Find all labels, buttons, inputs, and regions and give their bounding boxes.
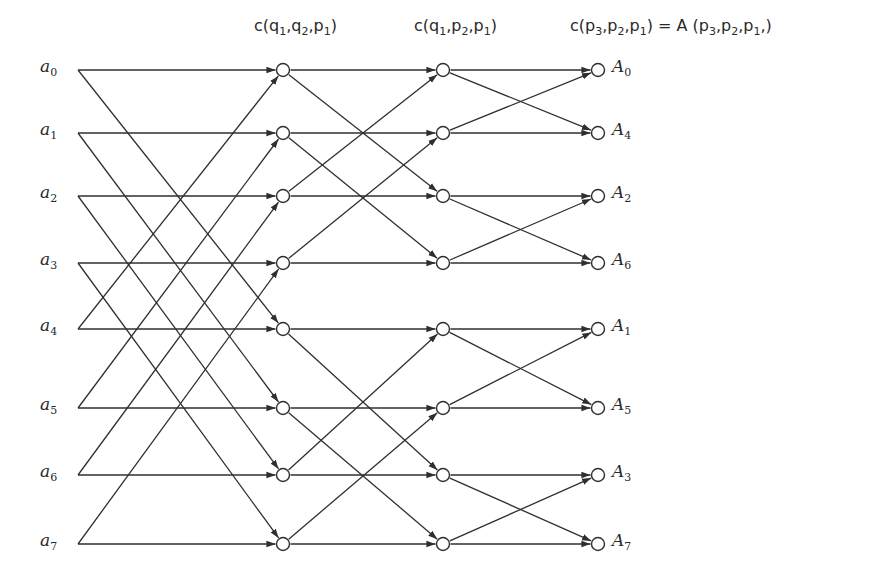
output-label-A6-subscript: 6 [624, 259, 631, 272]
output-label-A6: A6 [612, 251, 631, 271]
node-stage1-row3 [277, 257, 290, 270]
output-label-A2-base: A [612, 182, 624, 202]
input-label-a0: a0 [40, 58, 57, 78]
node-stage3-row4 [592, 323, 605, 336]
input-label-a3-base: a [40, 249, 50, 269]
input-label-a3-subscript: 3 [50, 259, 57, 272]
butterfly-edges [78, 70, 591, 544]
fft-butterfly-diagram [0, 0, 877, 579]
header-stage3: c(p3,p2,p1) = A (p3,p2,p1,) [570, 18, 772, 37]
node-stage2-row0 [437, 64, 450, 77]
output-label-A7-base: A [612, 530, 624, 550]
output-label-A4: A4 [612, 121, 631, 141]
output-label-A6-base: A [612, 249, 624, 269]
node-stage2-row5 [437, 402, 450, 415]
input-label-a1: a1 [40, 121, 57, 141]
output-label-A0: A0 [612, 58, 631, 78]
node-stage1-row2 [277, 190, 290, 203]
output-label-A2: A2 [612, 184, 631, 204]
node-stage2-row7 [437, 538, 450, 551]
node-stage3-row6 [592, 469, 605, 482]
input-label-a0-subscript: 0 [50, 66, 57, 79]
node-stage2-row6 [437, 469, 450, 482]
output-label-A2-subscript: 2 [624, 192, 631, 205]
node-stage2-row4 [437, 323, 450, 336]
output-label-A4-base: A [612, 119, 624, 139]
output-label-A1: A1 [612, 317, 631, 337]
output-label-A0-subscript: 0 [624, 66, 631, 79]
edge-stage1-cross [78, 196, 279, 469]
node-stage3-row5 [592, 402, 605, 415]
input-label-a7-subscript: 7 [50, 540, 57, 553]
output-label-A1-base: A [612, 315, 624, 335]
node-stage1-row7 [277, 538, 290, 551]
input-label-a4-base: a [40, 315, 50, 335]
node-stage3-row1 [592, 127, 605, 140]
node-stage3-row7 [592, 538, 605, 551]
node-stage1-row5 [277, 402, 290, 415]
input-label-a0-base: a [40, 56, 50, 76]
node-stage2-row3 [437, 257, 450, 270]
node-stage3-row3 [592, 257, 605, 270]
node-stage2-row1 [437, 127, 450, 140]
node-stage3-row0 [592, 64, 605, 77]
output-label-A3-subscript: 3 [624, 471, 631, 484]
input-label-a7: a7 [40, 532, 57, 552]
edge-stage1-cross [78, 269, 279, 544]
edge-stage1-cross [78, 202, 279, 475]
node-stage1-row6 [277, 469, 290, 482]
input-label-a2-base: a [40, 182, 50, 202]
input-label-a1-subscript: 1 [50, 129, 57, 142]
edge-stage1-cross [78, 139, 279, 408]
header-stage2: c(q1,p2,p1) [414, 18, 497, 37]
output-label-A3-base: A [612, 461, 624, 481]
output-label-A7-subscript: 7 [624, 540, 631, 553]
input-label-a5-base: a [40, 394, 50, 414]
edge-stage1-cross [78, 133, 279, 402]
input-label-a7-base: a [40, 530, 50, 550]
input-label-a6: a6 [40, 463, 57, 483]
output-label-A3: A3 [612, 463, 631, 483]
header-stage1: c(q1,q2,p1) [254, 18, 337, 37]
input-label-a4-subscript: 4 [50, 325, 57, 338]
output-label-A7: A7 [612, 532, 631, 552]
node-stage1-row4 [277, 323, 290, 336]
input-label-a5: a5 [40, 396, 57, 416]
input-label-a1-base: a [40, 119, 50, 139]
output-label-A5-subscript: 5 [624, 404, 631, 417]
butterfly-nodes [277, 64, 605, 551]
input-label-a4: a4 [40, 317, 57, 337]
input-label-a2: a2 [40, 184, 57, 204]
edge-stage1-cross [78, 263, 279, 538]
input-label-a2-subscript: 2 [50, 192, 57, 205]
output-label-A4-subscript: 4 [624, 129, 631, 142]
output-label-A5: A5 [612, 396, 631, 416]
input-label-a6-subscript: 6 [50, 471, 57, 484]
output-label-A1-subscript: 1 [624, 325, 631, 338]
node-stage1-row1 [277, 127, 290, 140]
output-label-A5-base: A [612, 394, 624, 414]
output-label-A0-base: A [612, 56, 624, 76]
node-stage2-row2 [437, 190, 450, 203]
node-stage1-row0 [277, 64, 290, 77]
input-label-a6-base: a [40, 461, 50, 481]
input-label-a3: a3 [40, 251, 57, 271]
node-stage3-row2 [592, 190, 605, 203]
input-label-a5-subscript: 5 [50, 404, 57, 417]
edge-stage1-cross [78, 76, 278, 329]
